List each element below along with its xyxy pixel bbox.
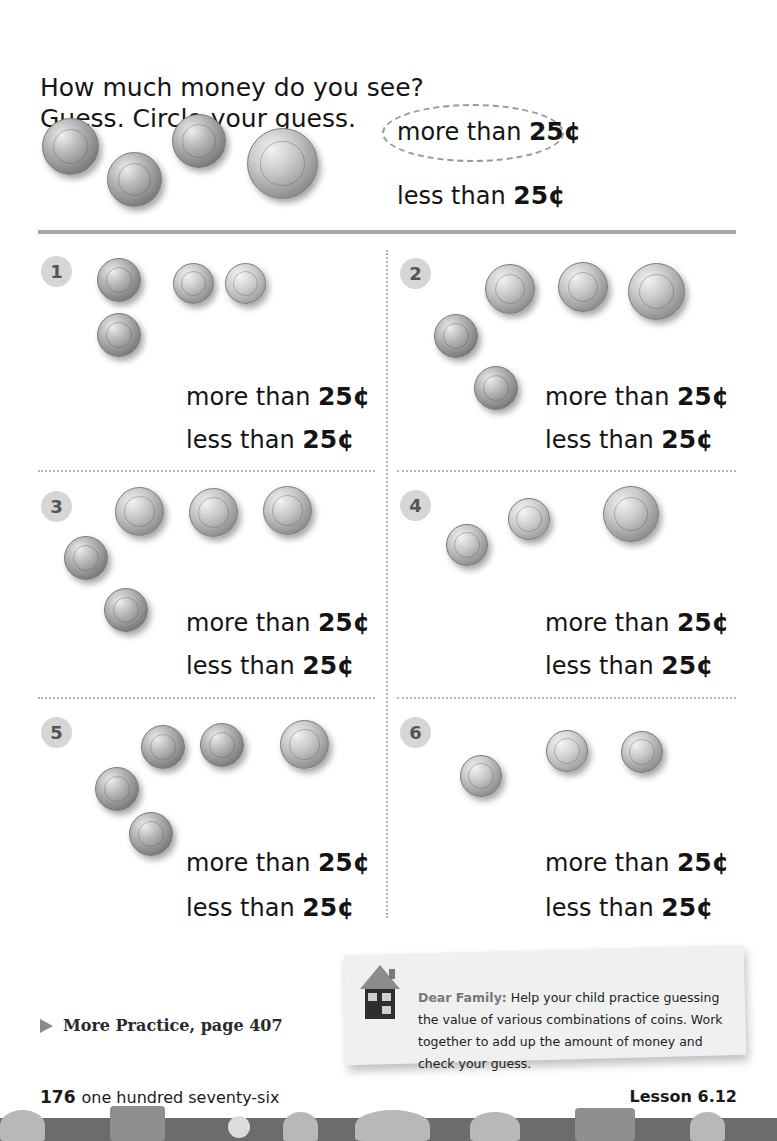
penny-coin — [474, 366, 518, 410]
penny-coin — [434, 314, 478, 358]
page-number-words: one hundred seventy-six — [82, 1088, 280, 1107]
penny-coin — [97, 258, 141, 302]
choice-label: less than — [545, 894, 661, 922]
choice-label: less than — [186, 426, 302, 454]
problem-number-badge: 1 — [41, 256, 72, 287]
choice-amount: 25¢ — [302, 893, 354, 922]
problem-3-less-choice[interactable]: less than 25¢ — [186, 651, 354, 680]
problem-5-less-choice[interactable]: less than 25¢ — [186, 893, 354, 922]
problem-5-more-choice[interactable]: more than 25¢ — [186, 848, 370, 877]
penny-coin — [97, 313, 141, 357]
problem-6-more-choice[interactable]: more than 25¢ — [545, 848, 729, 877]
register-decoration — [575, 1108, 635, 1141]
row-divider — [38, 697, 375, 699]
choice-amount: 25¢ — [661, 651, 713, 680]
family-note-text: Dear Family: Help your child practice gu… — [418, 987, 728, 1075]
more-practice-label: More Practice, page 407 — [63, 1016, 283, 1035]
choice-label: less than — [397, 182, 513, 210]
dime-coin — [621, 731, 663, 773]
problem-1-more-choice[interactable]: more than 25¢ — [186, 382, 370, 411]
column-divider — [386, 250, 388, 918]
choice-amount: 25¢ — [661, 893, 713, 922]
quarter-coin — [628, 263, 685, 320]
choice-label: less than — [545, 652, 661, 680]
choice-label: less than — [186, 652, 302, 680]
choice-label: more than — [545, 609, 677, 637]
nickel-coin — [280, 720, 329, 769]
dime-coin — [546, 730, 588, 772]
choice-amount: 25¢ — [661, 425, 713, 454]
nickel-coin — [485, 264, 535, 314]
example-more-choice[interactable]: more than 25¢ — [397, 117, 581, 146]
problem-6-less-choice[interactable]: less than 25¢ — [545, 893, 713, 922]
choice-amount: 25¢ — [318, 382, 370, 411]
choice-label: more than — [545, 383, 677, 411]
nickel-coin — [189, 488, 238, 537]
problem-2-less-choice[interactable]: less than 25¢ — [545, 425, 713, 454]
choice-label: more than — [186, 609, 318, 637]
example-less-choice[interactable]: less than 25¢ — [397, 181, 565, 210]
choice-label: more than — [186, 849, 318, 877]
problem-1-less-choice[interactable]: less than 25¢ — [186, 425, 354, 454]
choice-label: more than — [545, 849, 677, 877]
problem-3-more-choice[interactable]: more than 25¢ — [186, 608, 370, 637]
choice-label: more than — [186, 383, 318, 411]
instructions: How much money do you see? Guess. Circle… — [40, 72, 424, 134]
penny-coin — [64, 536, 108, 580]
penny-coin — [129, 812, 173, 856]
dime-coin — [508, 498, 550, 540]
section-divider — [38, 230, 736, 234]
penny-coin — [95, 767, 139, 811]
lesson-label: Lesson 6.12 — [629, 1087, 737, 1106]
cap-decoration — [355, 1110, 430, 1141]
page-footer-left: 176one hundred seventy-six — [40, 1087, 279, 1107]
penny-coin — [107, 152, 162, 207]
problem-number-badge: 2 — [400, 258, 431, 289]
problem-4-more-choice[interactable]: more than 25¢ — [545, 608, 729, 637]
choice-amount: 25¢ — [302, 651, 354, 680]
penny-coin — [172, 114, 226, 168]
more-practice-link[interactable]: More Practice, page 407 — [40, 1016, 283, 1035]
problem-number-badge: 4 — [400, 490, 431, 521]
dime-coin — [225, 263, 266, 304]
choice-label: less than — [545, 426, 661, 454]
choice-amount: 25¢ — [513, 181, 565, 210]
hat-decoration — [0, 1110, 45, 1141]
problem-2-more-choice[interactable]: more than 25¢ — [545, 382, 729, 411]
family-note-lead: Dear Family: — [418, 990, 507, 1005]
coin-decoration — [228, 1116, 250, 1138]
frog-decoration — [690, 1112, 725, 1141]
quarter-coin — [603, 486, 659, 542]
problem-number-badge: 3 — [41, 491, 72, 522]
dime-coin — [460, 755, 502, 797]
row-divider — [397, 697, 736, 699]
quarter-coin — [247, 128, 318, 199]
choice-amount: 25¢ — [529, 117, 581, 146]
instruction-line-2: Guess. Circle your guess. — [40, 103, 424, 134]
dime-coin — [446, 524, 488, 566]
penny-coin — [200, 723, 244, 767]
frog-decoration — [283, 1112, 318, 1141]
instruction-line-1: How much money do you see? — [40, 72, 424, 103]
house-icon — [360, 965, 400, 1025]
dime-coin — [173, 263, 214, 304]
choice-amount: 25¢ — [677, 382, 729, 411]
choice-amount: 25¢ — [318, 608, 370, 637]
nickel-coin — [115, 487, 164, 536]
nickel-coin — [558, 262, 608, 312]
page-number: 176 — [40, 1087, 76, 1107]
play-triangle-icon — [40, 1019, 53, 1033]
nickel-coin — [263, 486, 312, 535]
penny-coin — [104, 588, 148, 632]
choice-amount: 25¢ — [318, 848, 370, 877]
helmet-decoration — [470, 1112, 520, 1141]
problem-number-badge: 5 — [41, 717, 72, 748]
problem-number-badge: 6 — [400, 717, 431, 748]
cash-register-decoration — [110, 1106, 165, 1141]
choice-label: less than — [186, 894, 302, 922]
choice-amount: 25¢ — [677, 848, 729, 877]
penny-coin — [141, 725, 185, 769]
choice-amount: 25¢ — [677, 608, 729, 637]
problem-4-less-choice[interactable]: less than 25¢ — [545, 651, 713, 680]
penny-coin — [42, 118, 99, 175]
